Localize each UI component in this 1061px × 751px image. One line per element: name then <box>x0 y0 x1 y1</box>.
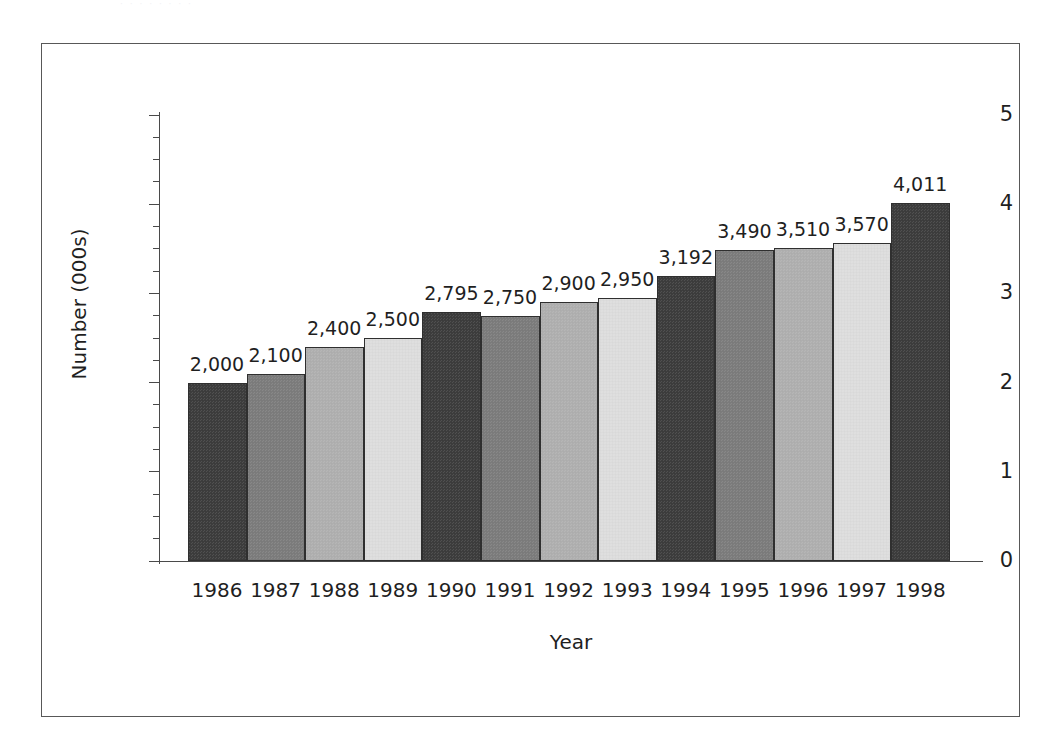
y-axis-major-tick <box>149 115 160 116</box>
bar-1990[interactable] <box>422 312 481 561</box>
bar-column: 3,1921994 <box>657 44 716 718</box>
scan-residue-text: · · · · · · · · <box>120 0 880 9</box>
bar-1987[interactable] <box>247 374 306 561</box>
y-axis-minor-tick <box>153 516 160 517</box>
y-axis-minor-tick <box>153 271 160 272</box>
bar-column: 2,9501993 <box>598 44 657 718</box>
bar-column: 3,4901995 <box>715 44 774 718</box>
bar-1991[interactable] <box>481 316 540 561</box>
x-axis-title: Year <box>159 632 983 652</box>
y-axis-major-tick <box>149 204 160 205</box>
chart-figure-frame: 012345 Number (000s) 2,00019862,10019872… <box>41 43 1020 717</box>
bar-1989[interactable] <box>364 338 423 561</box>
y-axis-minor-tick <box>153 181 160 182</box>
bar-value-label: 4,011 <box>877 175 963 194</box>
bar-1997[interactable] <box>833 243 892 561</box>
plot-area: 012345 Number (000s) 2,00019862,10019872… <box>42 44 1021 718</box>
bar-1996[interactable] <box>774 248 833 561</box>
x-axis-tick-label: 1998 <box>879 580 961 600</box>
y-axis-minor-tick <box>153 449 160 450</box>
y-axis-minor-tick <box>153 338 160 339</box>
bar-1995[interactable] <box>715 250 774 561</box>
y-axis-minor-tick <box>153 538 160 539</box>
y-axis-minor-tick <box>153 159 160 160</box>
y-axis-major-tick <box>149 471 160 472</box>
bar-1986[interactable] <box>188 383 247 561</box>
y-axis-minor-tick <box>153 360 160 361</box>
y-axis-minor-tick <box>153 137 160 138</box>
bar-1988[interactable] <box>305 347 364 561</box>
bar-column: 2,1001987 <box>247 44 306 718</box>
bar-column: 2,7501991 <box>481 44 540 718</box>
y-axis-major-tick <box>149 293 160 294</box>
bar-column: 4,0111998 <box>891 44 950 718</box>
y-axis-minor-tick <box>153 315 160 316</box>
y-axis-major-tick <box>149 561 160 562</box>
y-axis-minor-tick <box>153 226 160 227</box>
page-canvas: · · · · · · · · 012345 Number (000s) 2,0… <box>0 0 1061 751</box>
bar-column: 2,0001986 <box>188 44 247 718</box>
bar-series: 2,00019862,10019872,40019882,50019892,79… <box>188 44 950 718</box>
bar-1993[interactable] <box>598 298 657 561</box>
bar-1994[interactable] <box>657 276 716 561</box>
bar-column: 2,9001992 <box>540 44 599 718</box>
bar-column: 3,5101996 <box>774 44 833 718</box>
y-axis-minor-tick <box>153 248 160 249</box>
bar-column: 2,7951990 <box>422 44 481 718</box>
bar-column: 2,5001989 <box>364 44 423 718</box>
bar-1998[interactable] <box>891 203 950 561</box>
y-axis-minor-tick <box>153 404 160 405</box>
bar-1992[interactable] <box>540 302 599 561</box>
y-axis-title: Number (000s) <box>69 104 89 504</box>
bar-column: 2,4001988 <box>305 44 364 718</box>
y-axis-major-tick <box>149 382 160 383</box>
bar-column: 3,5701997 <box>833 44 892 718</box>
y-axis-minor-tick <box>153 427 160 428</box>
y-axis-minor-tick <box>153 494 160 495</box>
